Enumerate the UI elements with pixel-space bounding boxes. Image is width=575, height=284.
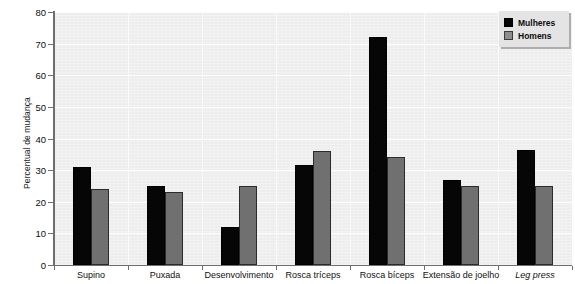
y-tick-label: 0 [20, 260, 46, 271]
legend-label-mulheres: Mulheres [518, 18, 555, 28]
bar-chart: Percentual de mudança 01020304050607080 … [0, 0, 575, 284]
x-tick-label: Puxada [150, 270, 181, 280]
x-tick-label: Desenvolvimento [204, 270, 273, 280]
bar-homens [239, 186, 257, 265]
bar-mulheres [295, 165, 313, 265]
chart-legend: Mulheres Homens [499, 11, 569, 47]
bar-homens [535, 186, 553, 265]
bar-homens [165, 192, 183, 265]
gridline-vertical [276, 12, 277, 265]
x-tick-mark [54, 266, 55, 270]
gridline-horizontal [54, 139, 572, 140]
bar-mulheres [443, 180, 461, 265]
x-tick-mark [572, 266, 573, 270]
y-tick-mark [48, 233, 53, 234]
gridline-horizontal [54, 75, 572, 76]
y-tick-mark [48, 139, 53, 140]
gridline-horizontal [54, 107, 572, 108]
bar-mulheres [73, 167, 91, 265]
x-tick-label: Leg press [515, 270, 555, 280]
gridline-horizontal [54, 44, 572, 45]
bar-mulheres [369, 37, 387, 265]
y-tick-mark [48, 12, 53, 13]
y-tick-label: 60 [20, 70, 46, 81]
x-tick-mark [276, 266, 277, 270]
x-tick-label: Rosca tríceps [285, 270, 340, 280]
y-tick-mark [48, 107, 53, 108]
legend-swatch-homens-icon [504, 31, 513, 40]
y-tick-mark [48, 202, 53, 203]
y-tick-label: 30 [20, 165, 46, 176]
x-axis-line [53, 265, 572, 266]
legend-label-homens: Homens [518, 31, 552, 41]
y-tick-mark [48, 75, 53, 76]
gridline-vertical [498, 12, 499, 265]
y-tick-label: 10 [20, 228, 46, 239]
y-tick-label: 40 [20, 133, 46, 144]
gridline-vertical [424, 12, 425, 265]
x-tick-mark [498, 266, 499, 270]
x-tick-label: Extensão de joelho [423, 270, 500, 280]
bar-mulheres [147, 186, 165, 265]
y-tick-label: 50 [20, 101, 46, 112]
bar-mulheres [221, 227, 239, 265]
x-tick-label: Rosca bíceps [360, 270, 415, 280]
y-tick-label: 70 [20, 38, 46, 49]
y-tick-label: 80 [20, 7, 46, 18]
bar-homens [387, 157, 405, 265]
y-tick-label: 20 [20, 196, 46, 207]
gridline-vertical [128, 12, 129, 265]
y-tick-mark [48, 265, 53, 266]
y-tick-mark [48, 170, 53, 171]
gridline-vertical [202, 12, 203, 265]
y-axis-line [53, 11, 55, 266]
gridline-vertical [350, 12, 351, 265]
legend-swatch-mulheres-icon [504, 18, 513, 27]
x-tick-label: Supino [77, 270, 105, 280]
legend-item-homens: Homens [504, 29, 563, 42]
y-tick-mark [48, 44, 53, 45]
x-tick-mark [350, 266, 351, 270]
x-tick-mark [202, 266, 203, 270]
gridline-horizontal [54, 12, 572, 13]
bar-homens [461, 186, 479, 265]
bar-homens [313, 151, 331, 265]
legend-item-mulheres: Mulheres [504, 16, 563, 29]
plot-area [54, 12, 572, 265]
bar-homens [91, 189, 109, 265]
bar-mulheres [517, 150, 535, 265]
x-tick-mark [128, 266, 129, 270]
